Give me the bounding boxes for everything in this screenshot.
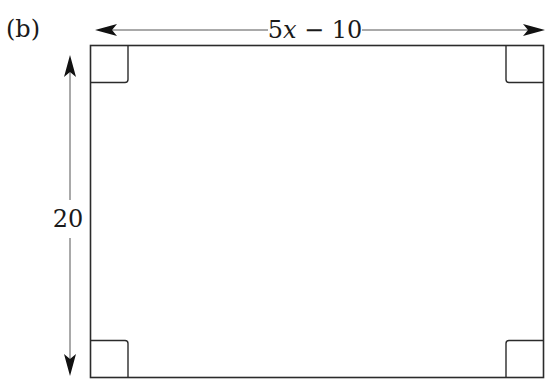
right-angle-marker-bottom-left xyxy=(91,341,129,378)
rectangle-diagram: (b) 5x − 10 20 xyxy=(0,0,549,391)
right-angle-marker-top-right xyxy=(506,46,544,83)
height-label: 20 xyxy=(53,205,84,233)
rectangle xyxy=(91,46,544,378)
right-angle-marker-top-left xyxy=(91,46,129,83)
figure-label: (b) xyxy=(6,15,40,43)
right-angle-marker-bottom-right xyxy=(506,341,544,378)
width-label: 5x − 10 xyxy=(268,16,363,44)
